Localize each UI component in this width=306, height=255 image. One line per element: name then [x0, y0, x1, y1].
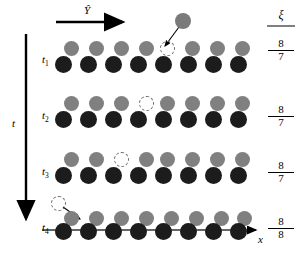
adatom-t2-4	[160, 96, 175, 111]
adatom-t3-3	[139, 152, 154, 167]
adatom-t1-3	[139, 41, 154, 56]
adatom-t1-2	[114, 41, 129, 56]
substrate-t2-5	[180, 111, 197, 128]
adatom-t1-0	[64, 41, 79, 56]
substrate-t3-0	[55, 167, 72, 184]
time-axis-label: t	[12, 118, 15, 129]
substrate-t4-4	[155, 223, 172, 240]
time-label-t1-sub: 1	[45, 59, 49, 68]
ratio-t2-num: 8	[268, 104, 294, 116]
substrate-t4-1	[80, 223, 97, 240]
substrate-t3-7	[230, 167, 247, 184]
adatom-t2-1	[89, 96, 104, 111]
ratio-t1-den: 7	[268, 50, 294, 63]
substrate-t2-7	[230, 111, 247, 128]
substrate-t1-6	[205, 56, 222, 73]
mobile-adatom-t1	[175, 13, 191, 29]
substrate-t4-3	[130, 223, 147, 240]
substrate-t3-6	[205, 167, 222, 184]
time-label-t3-sub: 3	[45, 171, 49, 180]
ratio-t3-num: 8	[268, 160, 294, 172]
adatom-t3-0	[64, 152, 79, 167]
adatom-t2-2	[114, 96, 129, 111]
ratio-t4: 8 8	[268, 216, 294, 240]
substrate-t4-6	[205, 223, 222, 240]
adatom-t1-1	[89, 41, 104, 56]
substrate-t1-3	[130, 56, 147, 73]
ratio-t3: 8 7	[268, 160, 294, 184]
vacancy-t3	[114, 152, 129, 167]
adatom-t3-4	[160, 152, 175, 167]
vacancy-t2	[139, 96, 154, 111]
substrate-t3-2	[105, 167, 122, 184]
ratio-t1: 8 7	[268, 38, 294, 62]
substrate-t1-2	[105, 56, 122, 73]
substrate-t4-0	[55, 223, 72, 240]
substrate-t2-0	[55, 111, 72, 128]
adatom-t3-6	[210, 152, 225, 167]
substrate-t2-1	[80, 111, 97, 128]
adatom-t3-5	[185, 152, 200, 167]
adatom-t2-7	[235, 96, 250, 111]
substrate-t4-5	[180, 223, 197, 240]
adatom-t2-6	[210, 96, 225, 111]
substrate-t2-4	[155, 111, 172, 128]
substrate-t3-5	[180, 167, 197, 184]
adatom-t3-1	[89, 152, 104, 167]
substrate-t4-2	[105, 223, 122, 240]
substrate-t2-3	[130, 111, 147, 128]
substrate-t1-4	[155, 56, 172, 73]
adatom-t1-7	[235, 41, 250, 56]
y-direction-label: Ŷ	[84, 5, 90, 16]
adatom-t1-6	[210, 41, 225, 56]
ratio-t2-den: 7	[268, 116, 294, 129]
substrate-t1-5	[180, 56, 197, 73]
substrate-t3-3	[130, 167, 147, 184]
ratio-t4-den: 8	[268, 228, 294, 241]
time-label-t3: t3	[42, 166, 49, 180]
time-label-t1: t1	[42, 54, 49, 68]
adatom-t1-5	[185, 41, 200, 56]
ratio-t2: 8 7	[268, 104, 294, 128]
x-axis-label: x	[258, 234, 263, 245]
time-label-t4: t4	[42, 222, 49, 236]
substrate-t3-1	[80, 167, 97, 184]
time-label-t2: t2	[42, 110, 49, 124]
adatom-t2-0	[64, 96, 79, 111]
figure-canvas: Ŷ t x ξ t1 8 7 t2	[0, 0, 306, 255]
ratio-t1-num: 8	[268, 38, 294, 50]
substrate-t2-2	[105, 111, 122, 128]
time-label-t2-sub: 2	[45, 115, 49, 124]
xi-symbol: ξ	[268, 8, 294, 23]
substrate-t1-1	[80, 56, 97, 73]
adatom-t3-7	[235, 152, 250, 167]
time-label-t4-sub: 4	[45, 227, 49, 236]
adatom-t2-5	[185, 96, 200, 111]
vacancy-t4-departing	[51, 196, 66, 211]
substrate-t2-6	[205, 111, 222, 128]
substrate-t3-4	[155, 167, 172, 184]
vacancy-t1	[160, 41, 175, 56]
substrate-t1-0	[55, 56, 72, 73]
ratio-t3-den: 7	[268, 172, 294, 185]
ratio-t4-num: 8	[268, 216, 294, 228]
substrate-t1-7	[230, 56, 247, 73]
substrate-t4-7	[230, 223, 247, 240]
